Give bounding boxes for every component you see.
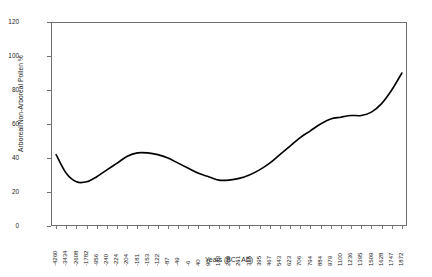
y-axis-tick-label: 100: [0, 53, 19, 59]
y-axis-tick-label: 0: [0, 223, 19, 229]
x-axis-title: Years (BC - AD): [51, 256, 407, 263]
y-axis-title: Arboreal/Non-Arboreal Pollen %: [17, 4, 24, 204]
y-axis-tick-label: 80: [0, 87, 19, 93]
y-axis-tick-label: 120: [0, 19, 19, 25]
y-axis-tick-label: 40: [0, 155, 19, 161]
y-axis-tick-mark: [47, 226, 51, 227]
y-axis-tick-label: 60: [0, 121, 19, 127]
pollen-curve: [51, 22, 407, 226]
curve-path: [56, 73, 402, 183]
y-axis-tick-label: 20: [0, 189, 19, 195]
pollen-percentage-line-chart: Arboreal/Non-Arboreal Pollen % 020406080…: [0, 0, 432, 277]
